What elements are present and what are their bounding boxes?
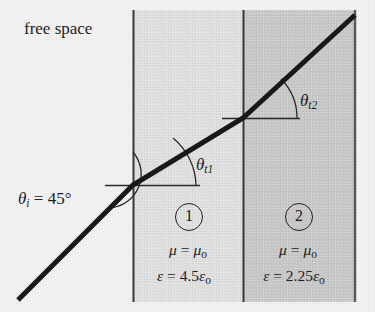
theta-t2-label: θt2	[300, 92, 317, 112]
region-1-permittivity: ε = 4.5εo	[130, 268, 238, 287]
degree-symbol: °	[65, 189, 72, 208]
epsilon-symbol: ε	[263, 267, 269, 284]
mu-value: μ	[303, 241, 311, 258]
mu-value: μ	[193, 241, 201, 258]
region-2-permittivity: ε = 2.25εo	[240, 268, 348, 287]
incident-equals-value: = 45	[30, 189, 65, 208]
mu-symbol: μ	[169, 241, 177, 258]
region-1-number: 1	[175, 203, 203, 231]
region-2-permeability: μ = μo	[244, 242, 352, 261]
theta-t2-subscript: t2	[308, 99, 317, 111]
figure-graphics	[0, 0, 375, 312]
epsilon-coefficient: 4.5	[180, 267, 199, 284]
region-1-permeability: μ = μo	[134, 242, 242, 261]
theta-t1-subscript: t1	[204, 163, 213, 175]
theta-t1-label: θt1	[196, 156, 213, 176]
region-2-number: 2	[285, 203, 313, 231]
mu-symbol: μ	[279, 241, 287, 258]
refraction-figure: free space θi = 45° θt1 θt2 1 2 μ = μo ε…	[0, 0, 375, 312]
mu-subscript: o	[311, 248, 317, 260]
mu-subscript: o	[201, 248, 207, 260]
incident-angle-label: θi = 45°	[18, 190, 71, 210]
epsilon-coefficient: 2.25	[286, 267, 313, 284]
free-space-label: free space	[24, 20, 92, 37]
epsilon-subscript: o	[205, 274, 211, 286]
epsilon-subscript: o	[319, 274, 325, 286]
epsilon-symbol: ε	[157, 267, 163, 284]
